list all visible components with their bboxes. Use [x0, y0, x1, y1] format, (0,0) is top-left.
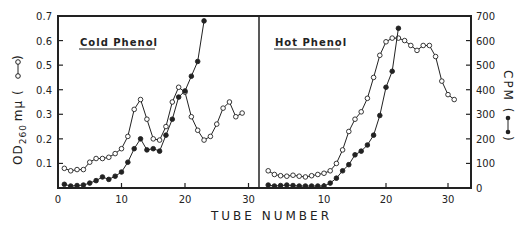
svg-text:10: 10 [115, 194, 128, 205]
svg-text:300: 300 [476, 109, 495, 120]
svg-text:200: 200 [476, 134, 495, 145]
svg-text:): ) [501, 136, 515, 141]
svg-text:0.1: 0.1 [36, 158, 52, 169]
svg-text:0.4: 0.4 [36, 85, 52, 96]
svg-text:0.3: 0.3 [36, 109, 52, 120]
svg-text:): ) [11, 55, 25, 60]
chart: 0.10.20.30.40.50.60.70100200300400500600… [0, 0, 527, 231]
svg-text:0.6: 0.6 [36, 36, 52, 47]
svg-text:400: 400 [476, 85, 495, 96]
svg-text:20: 20 [179, 194, 192, 205]
svg-text:0.5: 0.5 [36, 60, 52, 71]
y-axis-label-left: OD260mμ ( ) [11, 55, 28, 165]
svg-text:100: 100 [476, 158, 495, 169]
svg-text:OD260mμ (: OD260mμ ( [11, 89, 28, 165]
open-circle-legend-icon [16, 60, 21, 79]
svg-text:CPM (: CPM ( [501, 70, 515, 114]
svg-text:0.2: 0.2 [36, 134, 52, 145]
svg-text:0: 0 [55, 194, 61, 205]
svg-text:0: 0 [476, 183, 482, 194]
panel-label-cold-phenol: Cold Phenol [80, 37, 158, 48]
svg-text:600: 600 [476, 36, 495, 47]
svg-text:700: 700 [476, 11, 495, 22]
y-axis-label-right: CPM ( ) [501, 70, 515, 141]
svg-text:500: 500 [476, 60, 495, 71]
filled-circle-legend-icon [506, 116, 511, 135]
svg-text:30: 30 [442, 194, 455, 205]
svg-text:10: 10 [318, 194, 331, 205]
svg-text:30: 30 [242, 194, 255, 205]
panel-label-hot-phenol: Hot Phenol [275, 37, 347, 48]
svg-text:20: 20 [380, 194, 393, 205]
x-axis-label: TUBE NUMBER [210, 209, 332, 223]
svg-text:0.7: 0.7 [36, 11, 52, 22]
